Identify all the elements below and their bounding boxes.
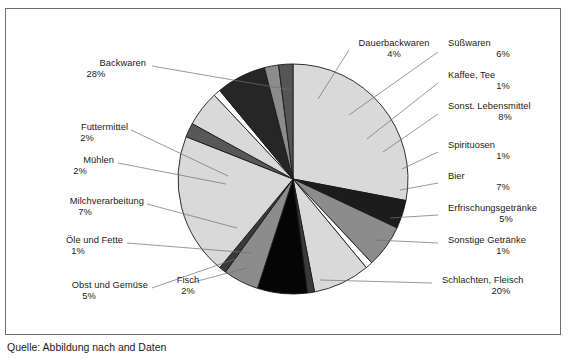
label-sonstige-getraenke: Sonstige Getränke 1% — [448, 235, 558, 257]
label-backwaren: Backwaren 28% — [46, 58, 146, 80]
leader-spirituosen — [402, 152, 438, 169]
label-suesswaren: Süßwaren 6% — [448, 38, 558, 60]
leader-suesswaren — [349, 52, 438, 115]
label-fisch: Fisch 2% — [166, 275, 210, 297]
pie-chart-figure: Backwaren 28% Futtermittel 2% Mühlen 2% … — [0, 0, 575, 359]
figure-caption: Quelle: Abbildung nach and Daten — [7, 341, 166, 353]
pie-slices — [178, 64, 408, 294]
label-dauerbackwaren: Dauerbackwaren 4% — [352, 38, 436, 60]
label-futtermittel: Futtermittel 2% — [46, 122, 128, 144]
label-kaffee-tee: Kaffee, Tee 1% — [448, 70, 558, 92]
label-obst-und-gemuese: Obst und Gemüse 5% — [30, 280, 148, 302]
label-spirituosen: Spirituosen 1% — [448, 140, 558, 162]
label-sonst-lebensmittel: Sonst. Lebensmittel 8% — [448, 101, 562, 123]
label-erfrischungsgetraenke: Erfrischungsgetränke 5% — [448, 203, 564, 225]
label-muehlen: Mühlen 2% — [46, 155, 114, 177]
label-bier: Bier 7% — [448, 171, 558, 193]
label-milchverarbeitung: Milchverarbeitung 7% — [26, 196, 144, 218]
label-schlachten-fleisch: Schlachten, Fleisch 20% — [442, 275, 560, 297]
label-oele-und-fette: Öle und Fette 1% — [33, 235, 123, 257]
pie-slice — [293, 64, 408, 201]
